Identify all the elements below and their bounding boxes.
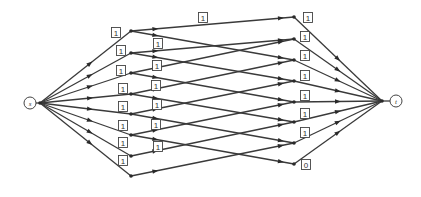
arrowhead-icon [152,48,158,53]
capacity-label: 1 [154,39,163,49]
source-node: s [24,97,36,109]
capacity-label: 1 [154,142,163,152]
left-node-L1 [129,29,133,33]
capacity-label: 1 [112,28,121,38]
left-node-L5 [129,112,133,116]
capacity-value: 1 [303,110,308,119]
left-node-L3 [129,71,133,75]
left-node-L6 [129,133,133,137]
capacity-label: 1 [199,13,208,23]
right-node-R2 [292,37,296,41]
left-node-L7 [129,154,133,158]
capacity-value: 1 [156,143,161,152]
right-node-R6 [292,120,296,124]
capacity-label: 1 [119,156,128,166]
capacity-label: 1 [153,61,162,71]
capacity-value: 1 [303,33,308,42]
capacity-label: 1 [119,138,128,148]
capacity-label: 1 [152,81,161,91]
capacity-value: 1 [155,101,160,110]
capacity-value: 1 [121,139,126,148]
capacity-value: 1 [303,72,308,81]
arrowhead-icon [278,16,284,21]
capacity-value: 1 [121,103,126,112]
right-node-R3 [292,58,296,62]
capacity-value: 0 [304,161,309,170]
capacity-label: 1 [301,91,310,101]
capacity-label: 0 [302,160,311,170]
arrowhead-icon [86,118,93,124]
edge-s-L7 [40,103,131,156]
edges-layer [36,17,390,176]
capacity-value: 1 [303,52,308,61]
arrowhead-icon [335,99,341,103]
source-label: s [29,100,32,108]
edge-s-L8 [40,103,131,176]
left-node-L2 [129,51,133,55]
arrowhead-icon [87,107,93,112]
capacity-value: 1 [121,122,126,131]
arrowhead-icon [334,119,341,126]
left-node-L4 [129,92,133,96]
capacity-value: 1 [201,14,206,23]
capacity-value: 1 [121,157,126,166]
capacity-value: 1 [154,82,159,91]
capacity-label: 1 [301,32,310,42]
source-hub-dot [38,101,42,105]
arrowhead-icon [87,83,94,89]
capacity-value: 1 [306,14,311,23]
capacity-value: 1 [119,47,124,56]
nodes-layer [38,15,384,178]
arrowhead-icon [87,96,93,101]
sink-node: t [390,95,402,107]
capacity-value: 1 [303,92,308,101]
capacity-value: 1 [114,29,119,38]
capacity-value: 1 [119,67,124,76]
capacity-label: 1 [301,109,310,119]
right-node-R7 [292,141,296,145]
capacity-value: 1 [156,40,161,49]
capacity-label: 1 [119,102,128,112]
capacity-label: 1 [301,51,310,61]
capacity-value: 1 [154,121,159,130]
capacity-label: 1 [117,66,126,76]
capacity-label: 1 [301,71,310,81]
capacity-label: 1 [152,120,161,130]
capacity-value: 1 [155,62,160,71]
right-node-R5 [292,100,296,104]
capacity-label: 1 [119,121,128,131]
capacity-value: 1 [121,85,126,94]
arrowhead-icon [152,26,158,31]
right-node-R1 [292,15,296,19]
sink-hub-dot [380,99,384,103]
arrowhead-icon [334,77,341,84]
right-node-R8 [292,162,296,166]
left-node-L8 [129,174,133,178]
edge-s-L5 [40,103,131,114]
right-node-R4 [292,79,296,83]
capacity-label: 1 [153,100,162,110]
capacity-label: 1 [119,84,128,94]
arrowhead-icon [86,129,93,136]
capacity-value: 1 [303,129,308,138]
flow-network-diagram: 11111111111111111111110 s t [0,0,421,197]
capacity-label: 1 [117,46,126,56]
arrowhead-icon [86,72,93,79]
capacity-label: 1 [304,13,313,23]
capacity-label: 1 [301,128,310,138]
